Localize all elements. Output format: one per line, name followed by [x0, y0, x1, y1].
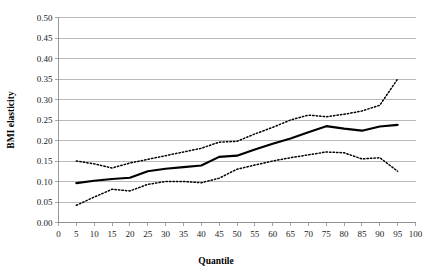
x-tick-label: 10 — [90, 229, 100, 239]
y-tick-label: 0.15 — [37, 156, 53, 166]
x-tick-label: 30 — [161, 229, 171, 239]
x-tick-label: 35 — [179, 229, 189, 239]
x-tick-label: 60 — [268, 229, 278, 239]
x-tick-label: 65 — [286, 229, 296, 239]
x-tick-label: 25 — [143, 229, 153, 239]
y-tick-label: 0.45 — [37, 33, 53, 43]
x-tick-label: 85 — [357, 229, 367, 239]
series-line-solid — [76, 125, 397, 183]
x-tick-label: 45 — [215, 229, 225, 239]
x-tick-label: 20 — [125, 229, 135, 239]
data-series — [76, 79, 397, 205]
x-tick-label: 100 — [409, 229, 423, 239]
y-tick-labels: 0.000.050.100.150.200.250.300.350.400.45… — [37, 13, 53, 228]
gridlines — [59, 18, 416, 223]
y-axis-title: BMI elasticity — [6, 91, 16, 149]
x-tick-label: 90 — [375, 229, 385, 239]
x-tick-label: 5 — [74, 229, 79, 239]
x-tick-label: 75 — [322, 229, 332, 239]
y-tick-label: 0.20 — [37, 136, 53, 146]
y-tick-label: 0.25 — [37, 115, 53, 125]
y-tick-label: 0.30 — [37, 95, 53, 105]
x-tick-label: 55 — [250, 229, 260, 239]
x-tick-label: 50 — [233, 229, 243, 239]
x-tick-label: 70 — [304, 229, 314, 239]
y-tick-label: 0.50 — [37, 13, 53, 23]
x-tick-label: 15 — [108, 229, 118, 239]
y-tick-label: 0.10 — [37, 177, 53, 187]
x-tick-label: 95 — [393, 229, 403, 239]
plot-border — [55, 18, 416, 227]
x-tick-label: 0 — [56, 229, 61, 239]
y-tick-label: 0.40 — [37, 54, 53, 64]
x-tick-labels: 0510152025303540455055606570758085909510… — [56, 229, 423, 239]
chart-figure: 0.000.050.100.150.200.250.300.350.400.45… — [0, 0, 433, 277]
x-tick-label: 80 — [340, 229, 350, 239]
y-tick-label: 0.00 — [37, 218, 53, 228]
y-tick-label: 0.35 — [37, 74, 53, 84]
y-tick-label: 0.05 — [37, 197, 53, 207]
x-axis-title: Quantile — [198, 256, 233, 266]
x-tick-label: 40 — [197, 229, 207, 239]
bmi-elasticity-quantile-chart: 0.000.050.100.150.200.250.300.350.400.45… — [0, 0, 433, 277]
